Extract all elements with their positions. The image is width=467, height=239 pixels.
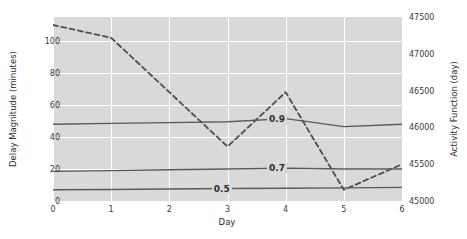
contour-label-0-9: 0.9	[267, 114, 287, 124]
x-axis-label: Day	[219, 217, 236, 227]
y-ticklabel-left: 80	[16, 69, 60, 78]
x-ticklabel: 2	[167, 205, 172, 214]
x-ticklabel: 3	[225, 205, 230, 214]
y-axis-label-right: Activity Function (day)	[449, 61, 459, 157]
x-ticklabel: 5	[341, 205, 346, 214]
plot-area	[53, 17, 402, 201]
y-ticklabel-right: 47000	[409, 49, 434, 58]
y-ticklabel-right: 46500	[409, 86, 434, 95]
x-ticklabel: 1	[109, 205, 114, 214]
series-layer	[53, 17, 402, 201]
y-axis-label-left: Delay Magnitude (minutes)	[8, 51, 18, 167]
contour-label-0-5: 0.5	[212, 184, 232, 194]
series-line-activity-function	[53, 25, 402, 190]
x-ticklabel: 4	[283, 205, 288, 214]
series-line-0-7	[53, 168, 402, 171]
y-ticklabel-right: 45000	[409, 197, 434, 206]
y-ticklabel-left: 40	[16, 133, 60, 142]
y-ticklabel-left: 20	[16, 165, 60, 174]
y-ticklabel-left: 100	[16, 37, 60, 46]
series-line-0-9	[53, 119, 402, 127]
x-ticklabel: 6	[399, 205, 404, 214]
x-ticklabel: 0	[50, 205, 55, 214]
y-ticklabel-right: 46000	[409, 123, 434, 132]
y-ticklabel-right: 47500	[409, 13, 434, 22]
y-ticklabel-right: 45500	[409, 160, 434, 169]
y-ticklabel-left: 60	[16, 101, 60, 110]
chart-figure: 0204060801004500045500460004650047000475…	[0, 0, 467, 239]
contour-label-0-7: 0.7	[267, 163, 287, 173]
